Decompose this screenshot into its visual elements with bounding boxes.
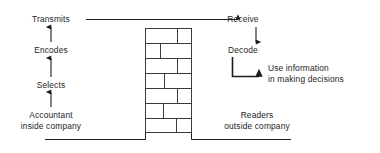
label-encodes: Encodes — [34, 45, 68, 56]
diagram-canvas: Transmits Encodes Selects Accountant ins… — [0, 0, 380, 153]
label-use-information: Use information in making decisions — [268, 63, 344, 85]
label-decode: Decode — [228, 45, 258, 56]
label-accountant-line1: Accountant — [21, 110, 81, 121]
label-use-information-line2: in making decisions — [268, 74, 344, 85]
wall-footing — [146, 133, 192, 140]
label-receive: Receive — [227, 14, 258, 25]
label-selects: Selects — [37, 80, 66, 91]
brick-wall-outline — [146, 29, 192, 133]
label-readers-line1: Readers — [224, 110, 290, 121]
brick-bed-joints — [146, 44, 192, 119]
brick-head-joints — [161, 29, 178, 133]
label-readers-outside-company: Readers outside company — [224, 110, 290, 132]
arrow-decode-to-use-information — [233, 57, 260, 77]
label-accountant-inside-company: Accountant inside company — [21, 110, 81, 132]
brick-wall — [146, 29, 192, 133]
label-use-information-line1: Use information — [268, 63, 344, 74]
label-accountant-line2: inside company — [21, 121, 81, 132]
label-transmits: Transmits — [32, 14, 70, 25]
label-readers-line2: outside company — [224, 121, 290, 132]
